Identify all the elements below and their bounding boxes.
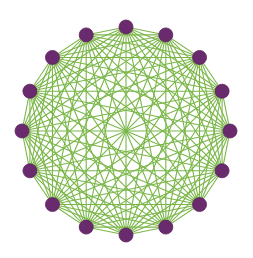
graph-node [223, 124, 237, 138]
graph-node [159, 28, 173, 42]
graph-node [193, 50, 207, 64]
graph-node [119, 228, 133, 242]
complete-graph-diagram [0, 0, 253, 258]
graph-node [159, 220, 173, 234]
graph-node [79, 220, 93, 234]
graph-node [23, 164, 37, 178]
graph-node [23, 84, 37, 98]
graph-node [45, 50, 59, 64]
graph-node [45, 198, 59, 212]
graph-node [193, 198, 207, 212]
graph-node [79, 28, 93, 42]
graph-node [215, 164, 229, 178]
graph-node [119, 20, 133, 34]
graph-node [15, 124, 29, 138]
graph-node [215, 84, 229, 98]
